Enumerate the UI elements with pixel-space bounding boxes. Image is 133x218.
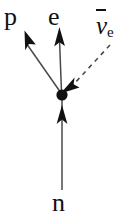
neutron-label: n bbox=[52, 190, 65, 216]
electron-label: e bbox=[48, 4, 60, 30]
antineutrino-nu-stack: ν bbox=[96, 8, 107, 39]
feynman-diagram-figure: p e ν e n bbox=[0, 0, 133, 218]
antineutrino-overbar bbox=[96, 9, 106, 11]
antineutrino-label: ν e bbox=[96, 8, 114, 40]
electron-line bbox=[60, 42, 62, 92]
antineutrino-nu-symbol: ν bbox=[96, 8, 107, 38]
interaction-vertex-dot bbox=[56, 89, 67, 100]
antineutrino-subscript: e bbox=[107, 24, 114, 40]
antineutrino-dashed-line bbox=[73, 45, 110, 85]
proton-label: p bbox=[4, 4, 17, 30]
proton-arrowhead bbox=[25, 31, 36, 51]
proton-line bbox=[28, 45, 62, 93]
